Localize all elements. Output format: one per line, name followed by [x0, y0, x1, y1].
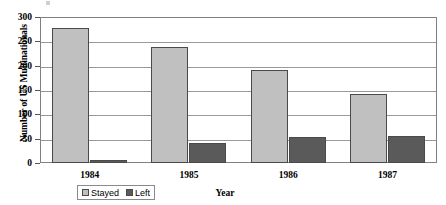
y-tick-label: 200 [2, 61, 32, 71]
y-tick-label: 250 [2, 36, 32, 46]
y-tick-mark [35, 139, 40, 140]
gridline [41, 91, 436, 92]
bar-chart: Number of US Multinationals 300250200150… [0, 0, 446, 205]
y-tick-mark [35, 90, 40, 91]
y-tick-label: 50 [2, 134, 32, 144]
scan-artifact [46, 1, 50, 5]
bar-left-1987 [388, 136, 425, 163]
x-tick-label-1986: 1986 [258, 170, 318, 181]
y-tick-label: 150 [2, 85, 32, 95]
legend-entry-left: Left [126, 188, 150, 198]
x-axis-title: Year [180, 188, 270, 198]
y-tick-label: 100 [2, 109, 32, 119]
bar-left-1985 [189, 143, 226, 163]
y-tick-mark [35, 114, 40, 115]
y-tick-label: 0 [2, 158, 32, 168]
y-tick-mark [35, 66, 40, 67]
legend-swatch-stayed [82, 189, 89, 196]
y-tick-mark [35, 17, 40, 18]
legend-label-left: Left [135, 188, 150, 198]
bar-stayed-1987 [350, 94, 387, 163]
x-tick-label-1987: 1987 [357, 170, 417, 181]
bar-stayed-1986 [251, 70, 288, 163]
y-tick-label: 300 [2, 12, 32, 22]
legend-entry-stayed: Stayed [82, 188, 119, 198]
bar-left-1986 [289, 137, 326, 163]
x-tick-label-1984: 1984 [60, 170, 120, 181]
bar-stayed-1984 [52, 28, 89, 163]
chart-legend: StayedLeft [77, 185, 155, 200]
y-tick-mark [35, 163, 40, 164]
y-tick-mark [35, 41, 40, 42]
gridline [41, 42, 436, 43]
gridline [41, 67, 436, 68]
legend-label-stayed: Stayed [91, 188, 119, 198]
bar-left-1984 [90, 160, 127, 163]
legend-swatch-left [126, 189, 133, 196]
bar-stayed-1985 [151, 47, 188, 163]
x-tick-label-1985: 1985 [159, 170, 219, 181]
